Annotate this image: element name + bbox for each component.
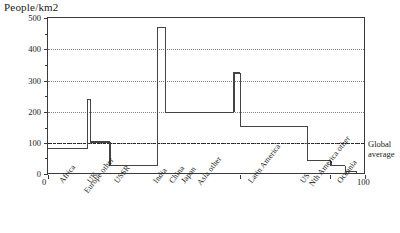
xtick-mid [240,175,241,179]
step-series [48,18,364,173]
step-segment [166,27,234,112]
xtick-0 [48,175,49,179]
global-average-label-line2: average [368,150,394,160]
ytick-400 [44,49,48,50]
ylabel-300: 300 [11,76,41,86]
step-segment [91,100,110,142]
ylabel-500: 500 [11,13,41,23]
ytick-150 [45,128,48,129]
step-segment [110,142,158,166]
step-segment [357,171,365,173]
xtick-mid-2 [330,175,331,179]
plot-inner [48,18,364,173]
ylabel-0: 0 [11,169,41,179]
ytick-50 [45,158,48,159]
plot-area [47,17,365,174]
xlabel-100: 100 [357,177,370,187]
xlabel-0: 0 [42,177,46,187]
ytick-450 [45,34,48,35]
global-average-annotation: Global average [368,140,394,160]
ytick-300 [44,81,48,82]
ylabel-200: 200 [11,107,41,117]
ylabel-400: 400 [11,44,41,54]
step-segment [158,27,166,165]
ylabel-100: 100 [11,138,41,148]
ytick-500 [44,18,48,19]
step-segment [234,73,240,112]
ytick-350 [45,65,48,66]
ytick-100 [44,143,48,144]
step-segment [240,73,307,126]
chart-axis-title: People/km2 [4,1,59,13]
chart-container: People/km2 Global average [0,0,400,233]
ytick-200 [44,112,48,113]
ytick-250 [45,96,48,97]
